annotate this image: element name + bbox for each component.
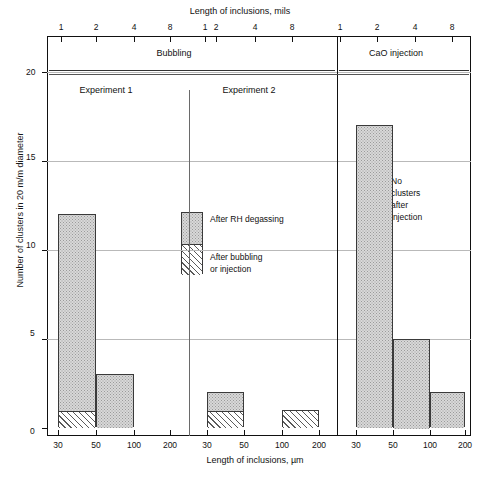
bottom-tick-7 [319,430,320,436]
bar-experiment-2-100-200 [282,410,319,428]
bottom-tick-label-3: 200 [163,440,177,451]
top-tick-label-11: 8 [450,22,455,33]
panel-separator-2 [337,36,338,436]
top-tick-9 [377,36,378,42]
bottom-axis-title: Length of inclusions, µm [206,455,303,466]
top-tick-label-2: 4 [132,22,137,33]
bottom-tick-label-7: 200 [312,440,326,451]
panel-header-experiment-1: Experiment 1 [79,85,132,96]
bottom-tick-label-4: 30 [202,440,211,451]
bar-segment-stipple-cao-injection-30-50 [357,126,392,429]
group-header-cao: CaO injection [369,48,423,59]
y-tick-label-15: 15 [26,152,35,163]
bottom-tick-4 [207,430,208,436]
top-tick-label-10: 4 [413,22,418,33]
bottom-tick-label-11: 200 [458,440,472,451]
y-tick-label-20: 20 [26,67,35,78]
y-tick-label-10: 10 [26,240,35,251]
bar-experiment-1-50-100 [96,374,134,427]
bottom-tick-1 [96,430,97,436]
bottom-tick-3 [170,430,171,436]
panel-header-experiment-2: Experiment 2 [222,85,275,96]
bar-segment-hatch-experiment-2-100-200 [283,411,318,429]
bottom-tick-5 [244,430,245,436]
gridline-y-20 [47,72,471,73]
bottom-tick-9 [393,430,394,436]
y-tick-10 [42,250,47,251]
bottom-tick-2 [134,430,135,436]
bar-experiment-2-30-50 [207,392,244,428]
legend-label-bubbling-line-2: or injection [210,264,251,275]
y-tick-label-5: 5 [30,328,35,339]
bottom-tick-label-2: 100 [127,440,141,451]
top-tick-11 [452,36,453,42]
legend-label-bubbling-line-1: After bubbling [210,252,262,263]
panel-rule [49,74,469,75]
top-tick-7 [292,36,293,42]
bottom-tick-0 [58,430,59,436]
panel-separator-1 [189,90,190,436]
top-tick-10 [415,36,416,42]
group-rule-cao [339,70,469,71]
bar-segment-stipple-experiment-1-30-50 [59,215,95,411]
bottom-tick-label-10: 100 [423,440,437,451]
y-tick-0 [42,428,47,429]
top-tick-6 [255,36,256,42]
top-tick-5 [216,36,217,42]
bar-segment-stipple-cao-injection-50-100 [394,340,429,429]
y-tick-label-0: 0 [30,426,35,437]
top-tick-8 [340,36,341,42]
y-tick-15 [42,161,47,162]
annotation-no-clusters-line-3: after [391,200,408,211]
top-tick-label-3: 8 [168,22,173,33]
bottom-tick-6 [282,430,283,436]
bar-segment-stipple-cao-injection-100-200 [431,393,464,429]
top-tick-label-6: 4 [253,22,258,33]
bottom-tick-label-9: 50 [388,440,397,451]
top-tick-label-7: 8 [290,22,295,33]
bottom-tick-label-1: 50 [91,440,100,451]
gridline-y-15 [47,161,471,162]
top-tick-2 [134,36,135,42]
gridline-y-10 [47,250,471,251]
annotation-no-clusters-line-4: injection [391,212,422,223]
group-header-bubbling: Bubbling [156,48,191,59]
bar-cao-injection-30-50 [356,125,393,428]
bar-segment-stipple-experiment-2-30-50 [208,393,243,411]
bottom-tick-11 [465,430,466,436]
group-rule-bubbling [49,70,335,71]
y-tick-5 [42,339,47,340]
bar-segment-hatch-experiment-1-30-50 [59,411,95,429]
top-tick-label-5: 2 [214,22,219,33]
top-tick-3 [170,36,171,42]
bar-cao-injection-50-100 [393,339,430,428]
legend-label-rh-degassing: After RH degassing [210,214,284,225]
top-tick-label-0: 1 [59,22,64,33]
annotation-no-clusters-line-2: clusters [391,188,420,199]
bottom-tick-10 [430,430,431,436]
top-axis-title: Length of inclusions, mils [190,6,291,17]
bar-segment-stipple-experiment-1-50-100 [97,375,133,428]
top-tick-label-8: 1 [338,22,343,33]
bottom-tick-label-0: 30 [53,440,62,451]
top-tick-label-1: 2 [94,22,99,33]
bottom-tick-label-5: 50 [239,440,248,451]
bottom-tick-label-8: 30 [351,440,360,451]
top-tick-0 [61,36,62,42]
top-tick-label-9: 2 [375,22,380,33]
top-tick-4 [205,36,206,42]
top-tick-1 [96,36,97,42]
bottom-tick-label-6: 100 [275,440,289,451]
chart-figure: Length of inclusions, mils 1 2 4 8 1 2 4… [0,0,479,480]
y-axis-title: Number of clusters in 20 m/m diameter [15,130,25,290]
y-tick-20 [42,72,47,73]
bar-cao-injection-100-200 [430,392,465,428]
top-tick-label-4: 1 [203,22,208,33]
legend-swatch-stipple [182,213,202,244]
bar-segment-hatch-experiment-2-30-50 [208,411,243,429]
legend-swatch [181,212,203,274]
bar-experiment-1-30-50 [58,214,96,428]
bottom-tick-8 [356,430,357,436]
